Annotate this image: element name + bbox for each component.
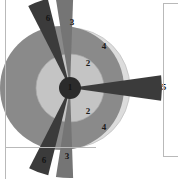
nested-wedge-diagram: 1 2 2 4 4 6 3 5 3 6 <box>0 0 182 179</box>
center-hub[interactable] <box>59 77 81 99</box>
figure-canvas: 1 2 2 4 4 6 3 5 3 6 <box>0 0 182 179</box>
